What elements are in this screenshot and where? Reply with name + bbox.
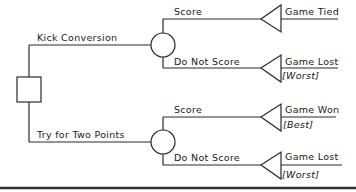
outcome-triangle-two-game-lost xyxy=(261,152,281,179)
result-label-game-tied: Game Tied xyxy=(285,7,339,17)
outcome-triangle-game-won xyxy=(261,104,281,131)
event-label-kick-score: Score xyxy=(174,7,202,17)
branch-label-two-points: Try for Two Points xyxy=(37,130,125,140)
event-label-kick-no-score: Do Not Score xyxy=(174,57,240,67)
result-label-kick-game-lost: Game Lost xyxy=(285,57,339,67)
chance-node-two-points xyxy=(151,130,175,154)
result-label-game-won: Game Won xyxy=(285,105,339,115)
result-label-two-game-lost: Game Lost xyxy=(285,152,339,162)
outcome-triangle-kick-game-lost xyxy=(261,55,281,82)
branch-label-kick-conversion: Kick Conversion xyxy=(37,33,117,43)
note-two-worst: [Worst] xyxy=(282,170,319,180)
outcome-triangle-game-tied xyxy=(261,5,281,32)
note-two-best: [Best] xyxy=(283,120,313,130)
decision-tree-diagram xyxy=(0,0,356,192)
note-kick-worst: [Worst] xyxy=(282,71,319,81)
decision-node-square xyxy=(17,77,41,102)
event-label-two-score: Score xyxy=(174,105,202,115)
event-label-two-no-score: Do Not Score xyxy=(174,153,240,163)
chance-node-kick xyxy=(151,33,175,57)
